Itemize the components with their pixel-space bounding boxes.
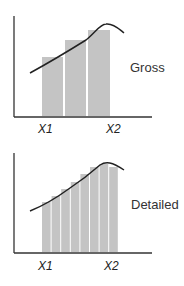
bar — [109, 167, 118, 252]
bar — [42, 57, 63, 116]
bar — [88, 30, 110, 116]
x2-label: X2 — [104, 259, 119, 273]
bar — [100, 164, 109, 252]
x1-label: X1 — [38, 259, 53, 273]
bar — [71, 182, 80, 252]
gross-label: Gross — [130, 60, 165, 75]
bar — [80, 174, 89, 252]
gross-panel: Gross X1 X2 — [0, 0, 184, 143]
detailed-chart — [0, 143, 184, 286]
bar — [61, 189, 70, 252]
detailed-bars — [42, 164, 118, 252]
bar — [42, 202, 51, 252]
bar — [52, 196, 61, 252]
x1-label: X1 — [38, 122, 53, 136]
detailed-label: Detailed — [131, 197, 179, 212]
gross-bars — [42, 30, 110, 116]
detailed-panel: Detailed X1 X2 — [0, 143, 184, 286]
x2-label: X2 — [106, 122, 121, 136]
bar — [90, 167, 99, 252]
